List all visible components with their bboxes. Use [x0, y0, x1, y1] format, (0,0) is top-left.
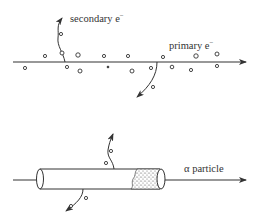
ionization-diagram: secondary e− primary e− α particle: [0, 0, 257, 224]
alpha-particle-label: α particle: [184, 163, 224, 174]
curved-arrow-down-icon: [137, 62, 157, 97]
secondary-electron-up: [58, 18, 65, 62]
secondary-electron-down-2: [66, 189, 83, 211]
curved-arrow-down-icon: [66, 189, 83, 211]
secondary-electron-label: secondary e−: [70, 12, 124, 24]
secondary-electron-down: [137, 62, 157, 97]
ionization-cylinder: [37, 169, 166, 189]
wavy-arrow-up-icon: [58, 18, 65, 62]
primary-electron-label: primary e−: [169, 39, 214, 51]
dense-ionization-core: [131, 169, 160, 189]
